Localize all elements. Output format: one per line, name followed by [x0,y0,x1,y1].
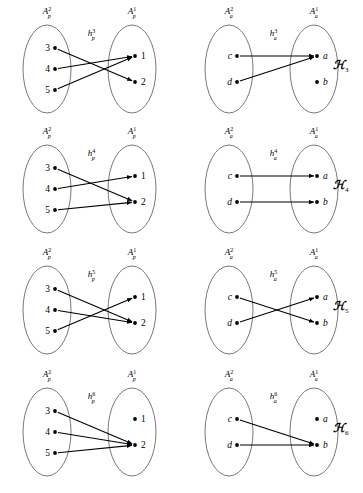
source-node-label: c [228,414,233,424]
source-node-dot [235,174,239,178]
source-node-dot [235,443,239,447]
target-set-label: A1a [309,247,319,260]
target-node-label: 2 [141,77,146,87]
source-set-label: A2p [42,369,52,382]
target-node-label: a [323,292,328,302]
structure-label-subscript: 4 [345,186,349,194]
panel-k3-p: 34512A2pA1ph3p [0,0,182,123]
map-label: h4p [88,148,96,161]
target-node-label: 1 [141,51,146,61]
source-node-dot [53,187,57,191]
structure-label-subscript: 5 [345,307,349,315]
mapping-arrow [240,420,314,444]
structure-label-4: ℋ4 [333,178,349,194]
source-node-label: c [228,171,233,181]
source-node-label: 3 [45,406,50,416]
source-node-label: 4 [45,305,50,315]
panel-k6-p: 34512A2pA1ph6p [0,363,182,486]
source-node-dot [53,409,57,413]
map-label: h6p [88,391,96,404]
source-node-dot [53,208,57,212]
target-node-dot [133,443,137,447]
target-ellipse [290,266,338,354]
target-node-label: b [323,318,328,328]
target-node-dot [315,200,319,204]
source-node-label: 5 [45,205,50,215]
target-node-dot [133,200,137,204]
source-ellipse [205,25,253,113]
target-node-dot [315,54,319,58]
source-node-dot [235,80,239,84]
target-node-dot [315,443,319,447]
structure-label-6: ℋ6 [333,421,349,437]
target-ellipse [108,388,156,476]
source-set-label: A2a [224,369,234,382]
target-node-label: b [323,77,328,87]
source-node-dot [235,321,239,325]
panel-k4-p: 34512A2pA1ph4p [0,120,182,243]
target-node-label: 1 [141,414,146,424]
mapping-arrow [58,298,132,330]
map-label: h5p [88,269,96,282]
source-node-dot [235,54,239,58]
panel-k5-p: 34512A2pA1ph5p [0,241,182,364]
structure-label-3: ℋ3 [333,58,349,74]
source-node-dot [53,287,57,291]
mapping-arrow [240,57,314,81]
source-node-label: 4 [45,427,50,437]
source-node-label: 4 [45,184,50,194]
target-node-dot [133,417,137,421]
structure-label-base: ℋ [333,299,345,313]
map-label: h5a [270,269,278,282]
target-set-label: A1p [127,6,137,19]
map-label: h4a [270,148,278,161]
map-label: h3p [88,28,96,41]
source-set-label: A2a [224,247,234,260]
source-node-label: c [228,292,233,302]
target-node-dot [133,321,137,325]
target-node-label: a [323,51,328,61]
target-node-label: b [323,197,328,207]
target-node-dot [133,54,137,58]
source-node-dot [53,329,57,333]
target-node-dot [133,80,137,84]
target-set-label: A1p [127,126,137,139]
source-node-label: c [228,51,233,61]
source-ellipse [205,388,253,476]
source-node-dot [53,308,57,312]
structure-label-subscript: 3 [345,66,349,74]
source-node-dot [235,417,239,421]
target-node-dot [315,321,319,325]
source-node-label: 3 [45,43,50,53]
source-node-dot [53,430,57,434]
target-node-label: 2 [141,318,146,328]
target-node-label: a [323,414,328,424]
target-node-dot [315,80,319,84]
source-set-label: A2a [224,6,234,19]
source-ellipse [205,145,253,233]
target-node-label: 2 [141,197,146,207]
target-ellipse [290,25,338,113]
panel-left-graphic: 34512A2pA1ph4p [0,120,182,243]
source-node-label: d [227,197,232,207]
map-label: h3a [270,28,278,41]
mapping-arrow [58,176,132,188]
target-node-dot [315,174,319,178]
target-set-label: A1a [309,369,319,382]
source-set-label: A2p [42,6,52,19]
source-node-dot [53,451,57,455]
structure-label-base: ℋ [333,421,345,435]
structure-label-5: ℋ5 [333,299,349,315]
target-node-label: 1 [141,171,146,181]
structure-label-base: ℋ [333,58,345,72]
source-node-label: d [227,77,232,87]
source-node-label: 5 [45,85,50,95]
structure-label-subscript: 6 [345,429,349,437]
source-set-label: A2a [224,126,234,139]
source-node-label: 3 [45,163,50,173]
panel-left-graphic: 34512A2pA1ph3p [0,0,182,123]
source-node-label: 5 [45,448,50,458]
map-label: h6a [270,391,278,404]
target-ellipse [290,145,338,233]
target-set-label: A1p [127,247,137,260]
